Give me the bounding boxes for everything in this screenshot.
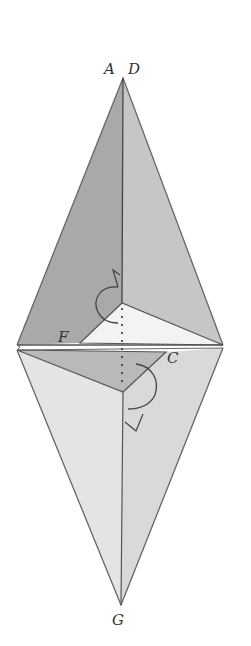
label-G: G [112, 613, 124, 628]
label-F: F [58, 330, 68, 345]
middle-edge-bottom [17, 348, 223, 350]
diagram-svg [0, 0, 251, 646]
label-C: C [167, 351, 178, 366]
folded-bipyramid-diagram: A D F C G [0, 0, 251, 646]
label-D: D [128, 62, 140, 77]
label-A: A [104, 62, 115, 77]
